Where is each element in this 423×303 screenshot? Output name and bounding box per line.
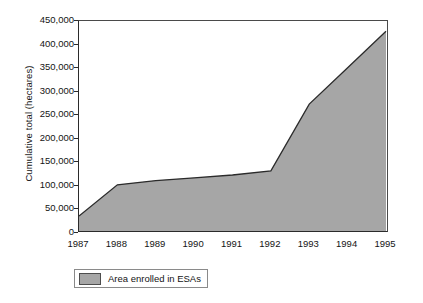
y-axis-tick-mark bbox=[74, 232, 78, 233]
y-axis-tick-label: 300,000 bbox=[40, 85, 74, 96]
plot-area bbox=[78, 20, 388, 232]
y-axis-title: Cumulative total (hectares) bbox=[23, 34, 34, 214]
y-axis-tick-label: 150,000 bbox=[40, 155, 74, 166]
y-axis-tick-label: 200,000 bbox=[40, 132, 74, 143]
legend-label-area-enrolled-in-esas: Area enrolled in ESAs bbox=[108, 273, 201, 284]
y-axis-tick-label: 450,000 bbox=[40, 14, 74, 25]
chart-legend: Area enrolled in ESAs bbox=[74, 269, 208, 288]
y-axis-tick-label: 400,000 bbox=[40, 38, 74, 49]
x-axis-tick-label: 1995 bbox=[363, 238, 407, 249]
y-axis-tick-label: 350,000 bbox=[40, 61, 74, 72]
area-series-svg bbox=[79, 21, 387, 231]
y-axis-tick-label: 100,000 bbox=[40, 179, 74, 190]
y-axis-tick-label: 250,000 bbox=[40, 108, 74, 119]
legend-swatch-area-enrolled-in-esas bbox=[79, 273, 101, 285]
chart-figure: Cumulative total (hectares) 050,000100,0… bbox=[0, 0, 423, 303]
y-axis-tick-label: 50,000 bbox=[45, 202, 74, 213]
area-fill-shape bbox=[79, 31, 386, 231]
